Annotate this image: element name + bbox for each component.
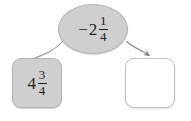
fraction-numerator: 3	[38, 68, 47, 82]
fraction: 1 4	[99, 14, 108, 43]
diagram-canvas: − 2 1 4 4 3 4	[0, 0, 191, 121]
mixed-number-left-operand: 4 3 4	[28, 68, 47, 97]
minus-sign-icon: −	[78, 21, 88, 38]
fraction-numerator: 1	[99, 14, 108, 28]
node-box-answer-blank[interactable]	[125, 58, 175, 108]
whole-number: 2	[89, 21, 98, 38]
node-box-left-operand[interactable]: 4 3 4	[12, 58, 62, 108]
fraction-denominator: 4	[99, 30, 108, 44]
connector-ellipse-to-answer-box	[127, 42, 150, 56]
fraction: 3 4	[38, 68, 47, 97]
whole-number: 4	[28, 75, 37, 92]
mixed-number-start: − 2 1 4	[78, 14, 108, 43]
connector-ellipse-to-left-box	[34, 42, 63, 59]
fraction-denominator: 4	[38, 84, 47, 98]
node-ellipse-start[interactable]: − 2 1 4	[58, 4, 128, 54]
